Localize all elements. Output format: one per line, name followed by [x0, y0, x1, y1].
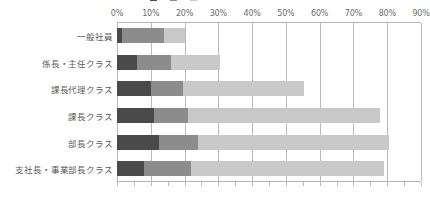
category-axis-labels: 一般社員係長・主任クラス課長代理クラス課長クラス部長クラス支社長・事業部長クラス	[0, 22, 113, 182]
category-label-6: 支社長・事業部長クラス	[0, 163, 113, 175]
x-axis-tick-labels: 0%10%20%30%40%50%60%70%80%90%	[0, 9, 424, 21]
axis-tickmark	[117, 182, 118, 186]
bar-segment-s1	[117, 161, 144, 176]
axis-tickmark	[337, 182, 338, 186]
category-label-2: 係長・主任クラス	[0, 57, 113, 69]
gridline-10pct	[151, 23, 152, 181]
bar-segment-s3	[171, 55, 220, 70]
bar-segment-s2	[122, 28, 164, 43]
category-label-1: 一般社員	[0, 30, 113, 42]
legend-item-1	[170, 0, 179, 1]
axis-tickmark	[286, 182, 287, 186]
x-tick-label-40pct: 40%	[244, 9, 261, 18]
legend-swatch-1	[170, 0, 177, 1]
legend-swatch-2	[190, 0, 197, 1]
axis-tickmark	[370, 182, 371, 186]
axis-tickmark	[201, 182, 202, 186]
axis-tickmark	[235, 182, 236, 186]
gridline-40pct	[252, 23, 253, 181]
bar-row	[117, 135, 421, 150]
bar-segment-s3	[183, 81, 305, 96]
x-tick-label-0pct: 0%	[111, 9, 123, 18]
bar-segment-s3	[188, 108, 381, 123]
bar-segment-s1	[117, 135, 159, 150]
legend-item-2	[190, 0, 199, 1]
bar-row	[117, 108, 421, 123]
axis-tickmark	[353, 182, 354, 186]
axis-tickmark	[404, 182, 405, 186]
x-tick-label-30pct: 30%	[210, 9, 227, 18]
gridline-50pct	[286, 23, 287, 181]
gridline-0pct	[117, 23, 118, 181]
bar-segment-s3	[198, 135, 389, 150]
bar-segment-s2	[154, 108, 188, 123]
gridline-90pct	[421, 23, 422, 181]
bar-segment-s1	[117, 81, 151, 96]
bar-row	[117, 161, 421, 176]
bar-segment-s2	[144, 161, 191, 176]
gridline-30pct	[218, 23, 219, 181]
bar-segment-s1	[117, 108, 154, 123]
bar-segment-s2	[151, 81, 183, 96]
axis-tickmark	[134, 182, 135, 186]
gridline-80pct	[387, 23, 388, 181]
bar-segment-s2	[159, 135, 198, 150]
bar-segment-s3	[191, 161, 384, 176]
bar-row	[117, 55, 421, 70]
chart-legend-clipped	[150, 0, 424, 9]
axis-tickmark	[387, 182, 388, 186]
x-tick-label-10pct: 10%	[142, 9, 159, 18]
axis-tickmark	[303, 182, 304, 186]
x-tick-label-80pct: 80%	[379, 9, 396, 18]
category-label-4: 課長クラス	[0, 110, 113, 122]
bar-segment-s1	[117, 55, 137, 70]
x-tick-label-20pct: 20%	[176, 9, 193, 18]
axis-tickmark	[218, 182, 219, 186]
legend-item-0	[150, 0, 159, 1]
legend-row	[150, 0, 424, 1]
legend-swatch-0	[150, 0, 157, 1]
x-tick-label-90pct: 90%	[412, 9, 429, 18]
gridline-60pct	[320, 23, 321, 181]
gridline-70pct	[353, 23, 354, 181]
x-tick-label-60pct: 60%	[311, 9, 328, 18]
category-label-5: 部長クラス	[0, 137, 113, 149]
bar-segment-s2	[137, 55, 171, 70]
axis-tickmark	[421, 182, 422, 186]
gridline-20pct	[185, 23, 186, 181]
plot-area	[117, 22, 421, 182]
axis-tickmark	[168, 182, 169, 186]
bar-row	[117, 28, 421, 43]
axis-tickmark	[252, 182, 253, 186]
x-tick-label-50pct: 50%	[277, 9, 294, 18]
axis-tickmark	[269, 182, 270, 186]
category-label-3: 課長代理クラス	[0, 83, 113, 95]
bar-segment-s3	[164, 28, 184, 43]
axis-tickmark	[320, 182, 321, 186]
axis-tickmark	[185, 182, 186, 186]
bar-row	[117, 81, 421, 96]
x-tick-label-70pct: 70%	[345, 9, 362, 18]
axis-tickmark	[151, 182, 152, 186]
